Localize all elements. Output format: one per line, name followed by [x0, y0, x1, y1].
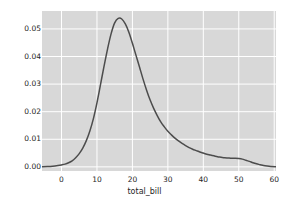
- x-tick-label: 20: [117, 176, 147, 184]
- kde-plot-figure: 0.000.010.020.030.040.05 0102030405060 t…: [0, 0, 289, 203]
- x-tick-label: 60: [259, 176, 289, 184]
- plot-area: [42, 11, 276, 171]
- y-tick-label: 0.01: [1, 136, 41, 144]
- y-tick-label: 0.00: [1, 163, 41, 171]
- density-curve: [42, 11, 276, 171]
- y-tick-label: 0.05: [1, 25, 41, 33]
- x-tick-label: 40: [188, 176, 218, 184]
- y-tick-label: 0.04: [1, 53, 41, 61]
- x-tick-label: 10: [82, 176, 112, 184]
- x-axis-label: total_bill: [0, 188, 289, 196]
- y-tick-label: 0.03: [1, 80, 41, 88]
- x-tick-label: 0: [47, 176, 77, 184]
- x-tick-label: 50: [224, 176, 254, 184]
- x-tick-label: 30: [153, 176, 183, 184]
- y-tick-label: 0.02: [1, 108, 41, 116]
- kde-curve-path: [42, 18, 276, 167]
